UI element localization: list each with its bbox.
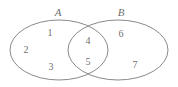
region-a-only-2: 2 bbox=[24, 45, 29, 55]
venn-diagram: A B 1 2 3 4 5 6 7 bbox=[0, 0, 178, 87]
set-b-label: B bbox=[118, 7, 125, 18]
set-a-label: A bbox=[55, 7, 62, 18]
region-a-only-3: 3 bbox=[49, 62, 54, 72]
region-a-only-1: 1 bbox=[48, 28, 53, 38]
region-intersection-5: 5 bbox=[86, 57, 91, 67]
region-b-only-7: 7 bbox=[133, 60, 138, 70]
region-b-only-6: 6 bbox=[119, 29, 124, 39]
region-intersection-4: 4 bbox=[86, 36, 91, 46]
